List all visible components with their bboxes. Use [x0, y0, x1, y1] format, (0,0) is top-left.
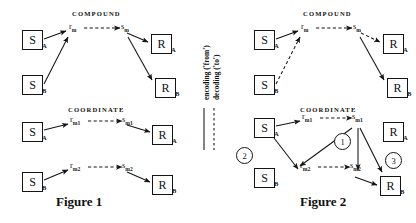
node-sm1-f2-subscript: m1	[355, 117, 362, 123]
node-r-a-compound-f2-subscript: A	[403, 46, 408, 53]
node-rm2-subscript: m2	[73, 166, 80, 172]
figure-2-caption: Figure 2	[300, 194, 346, 210]
node-r-b-compound-f2-subscript: B	[407, 90, 411, 97]
node-s-a-coordinate-f1-subscript: A	[42, 134, 47, 141]
node-r-a-coordinate-f1-subscript: A	[172, 137, 177, 144]
node-sm2-coordinate-f2: sm2	[350, 160, 361, 172]
node-rm1-f2-subscript: m1	[305, 117, 312, 123]
node-rm1-coordinate-f2: rm1	[302, 111, 312, 123]
node-sm-compound-f1: sm	[121, 21, 129, 33]
node-s-b-compound-f1: S	[22, 75, 43, 95]
node-r-b-coordinate-f1: R	[152, 175, 173, 195]
node-s-b-compound-f1-subscript: B	[42, 87, 46, 94]
f1-arrow-sa-rm1	[44, 124, 68, 130]
f2-arrow-sm1-rb	[360, 128, 382, 172]
node-r-a-compound-f1-subscript: A	[171, 46, 176, 53]
f2-dash-sb-rm	[276, 37, 300, 84]
f1-arrow-sb-rm	[44, 37, 68, 84]
f1-arrow-sm-rb	[128, 37, 152, 80]
node-sm2-coordinate-f1: sm2	[122, 160, 133, 172]
node-rm-compound-f1-subscript: m	[72, 27, 77, 33]
node-rm1-coordinate-f1: rm1	[70, 114, 80, 126]
node-r-b-compound-f1: R	[155, 78, 176, 98]
f1-arrow-sm2-rb2	[127, 172, 150, 182]
node-r-a-compound-f1: R	[151, 34, 172, 54]
legend-decoding-label: decoding ('to')	[212, 55, 221, 100]
node-rm-compound-f1: rm	[69, 21, 77, 33]
f2-arrow-sa-rm	[276, 31, 298, 39]
node-r-a-coordinate-f1: R	[152, 125, 173, 145]
node-rm1-subscript: m1	[73, 120, 80, 126]
f2-arrow-sa-rm2	[274, 138, 298, 169]
node-r-b-coordinate-f2-subscript: B	[400, 188, 404, 195]
section-label-compound-f2: COMPOUND	[303, 10, 352, 17]
marker-2: 2	[236, 147, 253, 164]
marker-3: 3	[385, 152, 402, 169]
f2-arrow-sm-rb	[360, 37, 384, 80]
section-label-compound-f1: COMPOUND	[72, 10, 121, 17]
node-sm2-f2-subscript: m2	[353, 166, 360, 172]
node-sm1-coordinate-f2: sm1	[352, 111, 363, 123]
node-r-b-compound-f2: R	[387, 78, 408, 98]
node-s-a-compound-f2-subscript: A	[274, 42, 279, 49]
f2-arrow-sa-rm1	[276, 121, 300, 126]
node-sm2-subscript: m2	[125, 166, 132, 172]
f1-arrow-sb-rm2	[44, 170, 68, 180]
node-s-a-coordinate-f1: S	[22, 122, 43, 142]
node-s-b-coordinate-f2-subscript: B	[274, 180, 278, 187]
node-s-a-coordinate-f2: S	[254, 118, 275, 138]
node-r-a-compound-f2: R	[383, 34, 404, 54]
node-s-a-compound-f2: S	[254, 30, 275, 50]
marker-1: 1	[334, 133, 351, 150]
node-s-b-coordinate-f1: S	[22, 172, 43, 192]
node-r-b-coordinate-f1-subscript: B	[172, 187, 176, 194]
node-s-a-coordinate-f2-subscript: A	[274, 130, 279, 137]
node-s-b-compound-f2: S	[254, 75, 275, 95]
node-sm1-coordinate-f1: sm1	[122, 114, 133, 126]
node-sm1-subscript: m1	[125, 120, 132, 126]
node-s-a-compound-f1-subscript: A	[42, 42, 47, 49]
node-rm-compound-f2: rm	[301, 21, 309, 33]
f1-arrow-sa-rm	[44, 31, 66, 39]
node-s-b-coordinate-f1-subscript: B	[42, 184, 46, 191]
figure-1-caption: Figure 1	[56, 194, 102, 210]
diagram-canvas: COMPOUND S A S B R A R B rm sm COORDINAT…	[0, 0, 416, 223]
node-rm2-coordinate-f2: rm2	[300, 160, 310, 172]
node-r-b-coordinate-f2: R	[380, 176, 401, 196]
node-s-b-coordinate-f2: S	[254, 168, 275, 188]
node-s-a-compound-f1: S	[22, 30, 43, 50]
legend-encoding-label: encoding ('from')	[202, 45, 211, 100]
node-sm-compound-f2: sm	[353, 21, 361, 33]
section-label-coordinate-f1: COORDINATE	[68, 106, 124, 113]
node-rm2-coordinate-f1: rm2	[70, 160, 80, 172]
node-sm-compound-f2-subscript: m	[356, 27, 361, 33]
f1-arrow-sm1-ra1	[127, 125, 150, 132]
f2-dash-sm-ra	[361, 33, 380, 42]
node-r-a-coordinate-f2-subscript: A	[403, 134, 408, 141]
node-s-b-compound-f2-subscript: B	[274, 87, 278, 94]
node-r-a-coordinate-f2: R	[383, 122, 404, 142]
node-r-b-compound-f1-subscript: B	[175, 90, 179, 97]
node-rm2-f2-subscript: m2	[303, 166, 310, 172]
node-sm-compound-f1-subscript: m	[124, 27, 129, 33]
f2-arrow-sm2-rb	[355, 177, 377, 185]
node-rm-compound-f2-subscript: m	[304, 27, 309, 33]
